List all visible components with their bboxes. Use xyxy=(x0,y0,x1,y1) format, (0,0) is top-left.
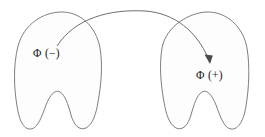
phase-mapping-diagram: Φ (−) Φ (+) xyxy=(0,0,265,137)
left-region-label: Φ (−) xyxy=(33,47,60,59)
right-region-label: Φ (+) xyxy=(196,69,223,81)
diagram-canvas xyxy=(0,0,265,137)
left-region-shape xyxy=(15,12,102,129)
